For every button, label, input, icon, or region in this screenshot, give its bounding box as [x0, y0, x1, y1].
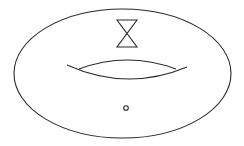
torus-outline	[14, 9, 231, 138]
torus-hole-upper-arc	[79, 60, 176, 69]
torus-diagram	[0, 0, 244, 146]
hourglass-icon	[117, 20, 137, 47]
point-marker	[124, 106, 129, 111]
